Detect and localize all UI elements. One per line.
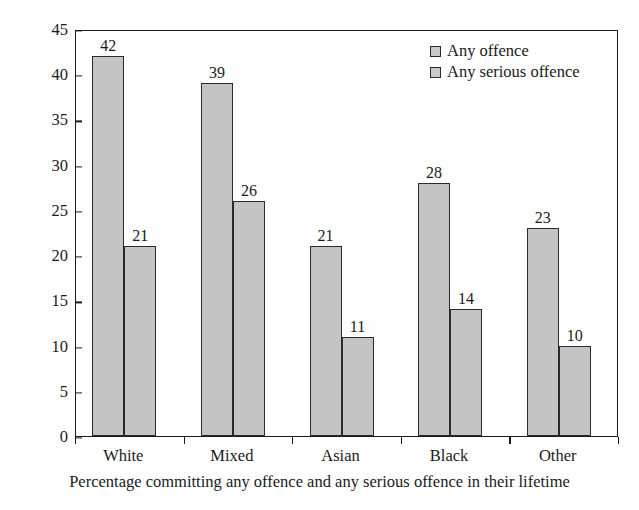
bar-value-label: 42	[100, 38, 116, 54]
chart-legend: Any offenceAny serious offence	[430, 41, 580, 83]
bar	[233, 201, 265, 436]
legend-item: Any serious offence	[430, 62, 580, 83]
bar-value-label: 14	[458, 291, 474, 307]
bar	[201, 83, 233, 436]
x-axis-tick-mark	[401, 437, 402, 444]
bar	[124, 246, 156, 436]
x-axis-category-label: White	[103, 446, 143, 466]
x-axis-caption: Percentage committing any offence and an…	[0, 472, 639, 492]
bar-value-label: 39	[209, 65, 225, 81]
y-axis-tick-mark	[76, 121, 82, 122]
y-axis-tick-mark	[76, 30, 82, 31]
y-axis-tick-mark	[76, 166, 82, 167]
x-axis-category-label: Black	[430, 446, 469, 466]
bar-value-label: 21	[318, 228, 334, 244]
y-axis-tick-mark	[76, 392, 82, 393]
bar	[450, 309, 482, 436]
x-axis-tick-mark	[509, 437, 510, 444]
legend-swatch-icon	[430, 46, 441, 57]
bar	[559, 346, 591, 436]
y-axis-tick-label: 10	[8, 338, 68, 355]
bar	[92, 56, 124, 436]
x-axis-category-label: Asian	[321, 446, 360, 466]
bar	[418, 183, 450, 436]
y-axis-tick-label: 25	[8, 203, 68, 220]
bar-value-label: 10	[567, 328, 583, 344]
bar-chart-figure: 051015202530354045 WhiteMixedAsianBlackO…	[0, 0, 639, 510]
y-axis-tick-mark	[76, 302, 82, 303]
y-axis-tick-label: 15	[8, 293, 68, 310]
bar	[310, 246, 342, 436]
bar-value-label: 11	[350, 319, 365, 335]
legend-label: Any offence	[447, 43, 529, 60]
y-axis-tick-label: 5	[8, 384, 68, 401]
y-axis-tick-mark	[76, 211, 82, 212]
x-axis-tick-mark	[618, 437, 619, 444]
x-axis-tick-mark	[292, 437, 293, 444]
y-axis-tick-label: 35	[8, 112, 68, 129]
y-axis-tick-mark	[76, 347, 82, 348]
x-axis-tick-mark	[184, 437, 185, 444]
legend-item: Any offence	[430, 41, 580, 62]
bar	[527, 228, 559, 436]
legend-swatch-icon	[430, 67, 441, 78]
y-axis-tick-label: 0	[8, 429, 68, 446]
y-axis-tick-label: 45	[8, 22, 68, 39]
y-axis-tick-mark	[76, 76, 82, 77]
x-axis-category-label: Other	[539, 446, 577, 466]
bar-value-label: 21	[132, 228, 148, 244]
bar-value-label: 23	[535, 210, 551, 226]
y-axis-tick-label: 20	[8, 248, 68, 265]
bar	[342, 337, 374, 436]
x-axis-category-label: Mixed	[210, 446, 253, 466]
bar-value-label: 28	[426, 165, 442, 181]
y-axis-tick-mark	[76, 437, 82, 438]
y-axis-tick-label: 40	[8, 67, 68, 84]
bar-value-label: 26	[241, 183, 257, 199]
legend-label: Any serious offence	[447, 64, 580, 81]
y-axis-tick-mark	[76, 257, 82, 258]
plot-area: 42213926211128142310	[75, 30, 618, 437]
y-axis-tick-label: 30	[8, 157, 68, 174]
